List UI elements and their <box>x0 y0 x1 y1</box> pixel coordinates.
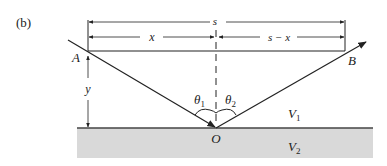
panel-label: (b) <box>16 15 31 30</box>
v1-label: V1 <box>288 106 300 123</box>
s-minus-x-label: s − x <box>268 31 290 43</box>
theta2-arc <box>216 109 236 115</box>
point-o-label: O <box>211 131 221 146</box>
reflection-diagram: (b) s x s − x y θ1 θ2 A B O V1 V2 <box>0 0 387 166</box>
point-a-label: A <box>71 50 80 65</box>
x-label: x <box>148 30 155 44</box>
s-label: s <box>213 15 217 27</box>
lower-medium-v2 <box>77 128 373 158</box>
theta1-arc <box>195 109 216 115</box>
point-b-label: B <box>348 53 356 68</box>
theta1-label: θ1 <box>194 92 205 109</box>
y-label: y <box>84 82 91 96</box>
theta2-label: θ2 <box>225 92 236 109</box>
